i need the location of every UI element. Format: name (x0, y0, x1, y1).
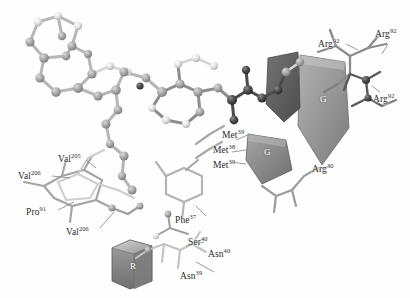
label-pro-91: Pro91 (26, 208, 46, 218)
label-phe-37: Phe37 (175, 216, 196, 226)
label-val-206-upper: Val206 (18, 172, 41, 182)
residue-name: Pro (26, 207, 40, 217)
residue-name: Val (58, 154, 71, 164)
molecular-structure-figure: Val206 Val205 Pro91 Val206 Phe37 Ser40 A… (0, 0, 410, 298)
residue-number: 40 (201, 235, 208, 242)
residue-name: Met (213, 160, 229, 170)
label-met-39-lower: Met39 (213, 161, 235, 171)
residue-name: Arg (373, 94, 388, 104)
residue-number: 206 (79, 225, 89, 232)
residue-number: 39 (196, 269, 203, 276)
residue-number: 92 (333, 37, 340, 44)
residue-number: 91 (40, 205, 47, 212)
residue-number: 205 (71, 152, 81, 159)
label-ser-40: Ser40 (188, 238, 208, 248)
residue-name: Val (18, 171, 31, 181)
residue-name: Asn (208, 249, 224, 259)
residue-name: Arg (375, 29, 390, 39)
label-met-39-upper: Met39 (222, 131, 244, 141)
residue-name: Val (66, 227, 79, 237)
residue-number: 92 (388, 92, 395, 99)
label-arg-92-right: Arg92 (373, 95, 395, 105)
residue-number: 39 (229, 158, 236, 165)
label-asn-40: Asn40 (208, 250, 230, 260)
residue-number: 30 (327, 162, 334, 169)
label-arg-92-left: Arg92 (318, 40, 340, 50)
structure-canvas (0, 0, 410, 298)
residue-number: 38 (229, 143, 236, 150)
residue-number: 206 (31, 169, 41, 176)
residue-name: Met (213, 145, 229, 155)
residue-number: 37 (190, 213, 197, 220)
residue-name: Ser (188, 237, 201, 247)
label-met-38: Met38 (213, 146, 235, 156)
residue-name: Met (222, 130, 238, 140)
residue-number: 39 (238, 128, 245, 135)
residue-name: Phe (175, 215, 190, 225)
label-val-205: Val205 (58, 155, 81, 165)
residue-number: 92 (390, 27, 397, 34)
label-arg-30: Arg30 (312, 165, 334, 175)
residue-number: 40 (224, 247, 231, 254)
label-arg-92-top: Arg92 (375, 30, 397, 40)
residue-name: Arg (318, 39, 333, 49)
residue-name: Asn (180, 271, 196, 281)
residue-name: Arg (312, 164, 327, 174)
label-val-206-lower: Val206 (66, 228, 89, 238)
label-asn-39: Asn39 (180, 272, 202, 282)
